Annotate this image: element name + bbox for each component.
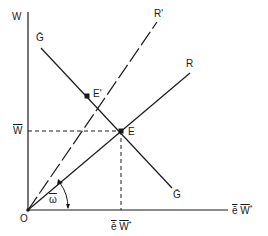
e-label: E — [128, 127, 135, 137]
g-bar-line — [41, 48, 172, 188]
r-prime-line — [28, 22, 157, 210]
omega-arrow-bottom — [66, 204, 70, 209]
point-e — [119, 129, 124, 134]
point-e-prime — [85, 94, 90, 99]
ew-tick-label: ē W* — [111, 220, 132, 232]
x-axis-star: * — [250, 204, 253, 211]
r-label: R — [186, 59, 193, 69]
g-bar-bottom-label: Ḡ — [173, 190, 181, 200]
w-bar-label: W̄ — [13, 126, 22, 136]
tick-e: ē — [111, 221, 117, 232]
omega-label: ω — [49, 195, 57, 205]
origin-point — [26, 208, 30, 212]
origin-label: O — [20, 214, 28, 224]
omega-arrow-top — [57, 179, 63, 185]
r-line — [28, 73, 190, 210]
x-axis-label: ē W* — [232, 204, 253, 216]
y-axis-label: W — [12, 12, 21, 22]
e-prime-label: E' — [93, 89, 102, 99]
x-axis-e: ē — [232, 205, 238, 216]
r-prime-label: R' — [154, 9, 163, 19]
tick-w: W — [119, 221, 128, 232]
tick-star: * — [129, 220, 132, 227]
x-axis-w: W — [240, 205, 249, 216]
g-bar-top-label: Ḡ — [36, 33, 44, 43]
